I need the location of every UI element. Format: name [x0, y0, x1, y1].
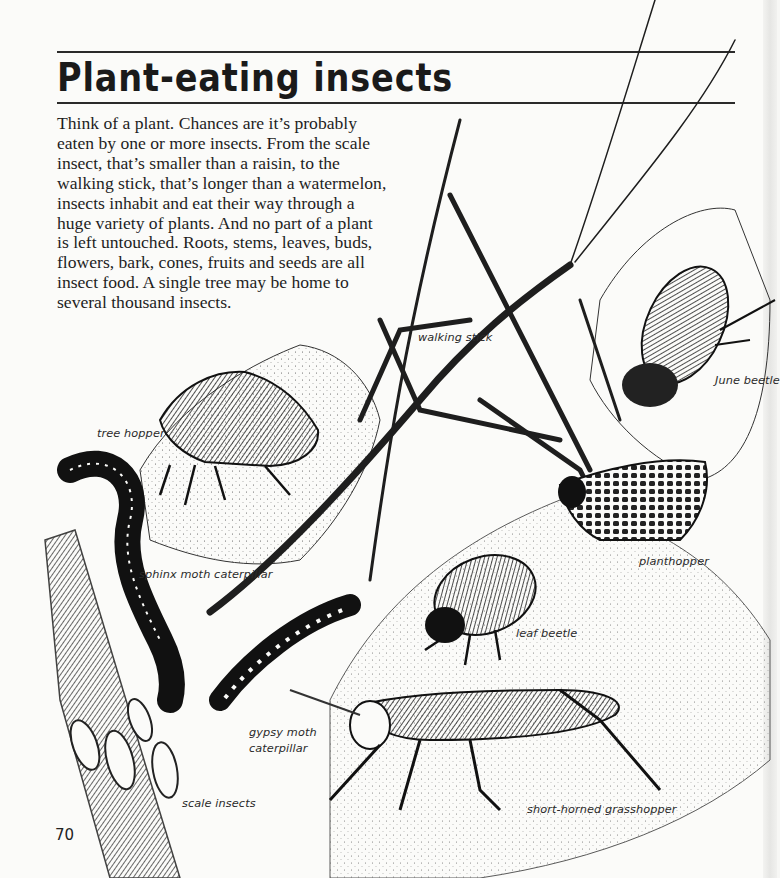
label-tree-hopper: tree hopper: [97, 427, 165, 440]
page-number: 70: [55, 826, 74, 844]
label-sphinx-moth-caterpillar: sphinx moth caterpillar: [139, 568, 273, 581]
label-scale-insects: scale insects: [182, 797, 256, 810]
label-leaf-beetle: leaf beetle: [516, 627, 577, 640]
label-short-horned-grasshopper: short-horned grasshopper: [527, 803, 677, 816]
label-planthopper: planthopper: [639, 555, 709, 568]
label-gypsy-moth-line2: caterpillar: [249, 742, 307, 755]
gypsy-moth-caterpillar-drawing: [220, 605, 350, 700]
label-walking-stick: walking stick: [418, 331, 492, 344]
label-june-beetle: June beetle: [715, 374, 780, 387]
label-gypsy-moth-line1: gypsy moth: [249, 726, 317, 739]
